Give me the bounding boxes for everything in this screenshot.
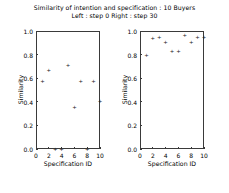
- x-axis-label: Specification ID: [36, 160, 100, 167]
- figure-title-block: Similarity of intention and specificatio…: [0, 4, 229, 20]
- y-tick-mark: [140, 54, 142, 55]
- data-point: [190, 40, 193, 43]
- x-tick-label: 10: [200, 152, 208, 159]
- x-tick-label: 0: [138, 152, 142, 159]
- x-tick-mark: [140, 147, 141, 149]
- data-point: [92, 79, 95, 82]
- data-point: [67, 64, 70, 67]
- figure-title: Similarity of intention and specificatio…: [0, 4, 229, 12]
- data-point: [54, 148, 57, 151]
- y-tick-mark: [140, 101, 142, 102]
- data-point: [196, 35, 199, 38]
- x-tick-mark: [165, 147, 166, 149]
- y-tick-label: 1.0: [16, 28, 33, 35]
- x-tick-mark: [74, 147, 75, 149]
- x-tick-label: 8: [189, 152, 193, 159]
- y-axis-label: Similarity: [17, 60, 24, 120]
- y-tick-mark: [140, 78, 142, 79]
- data-point: [86, 148, 89, 151]
- data-point: [41, 79, 44, 82]
- data-point: [183, 33, 186, 36]
- data-point: [145, 53, 148, 56]
- y-tick-label: 0.0: [16, 146, 33, 153]
- data-point: [79, 79, 82, 82]
- x-tick-label: 4: [164, 152, 168, 159]
- x-tick-mark: [152, 147, 153, 149]
- data-point: [73, 105, 76, 108]
- x-tick-label: 4: [60, 152, 64, 159]
- x-tick-mark: [191, 147, 192, 149]
- y-tick-label: 0.8: [120, 51, 137, 58]
- x-tick-mark: [178, 147, 179, 149]
- data-point: [171, 50, 174, 53]
- x-tick-mark: [48, 147, 49, 149]
- y-tick-mark: [36, 31, 38, 32]
- plot-frame-left: [36, 31, 100, 149]
- x-tick-label: 2: [151, 152, 155, 159]
- y-tick-label: 0.2: [16, 122, 33, 129]
- data-point: [47, 68, 50, 71]
- x-tick-mark: [100, 147, 101, 149]
- data-point: [203, 35, 206, 38]
- x-tick-label: 10: [96, 152, 104, 159]
- y-tick-label: 0.8: [16, 51, 33, 58]
- y-tick-mark: [36, 78, 38, 79]
- x-tick-mark: [36, 147, 37, 149]
- figure-canvas: Similarity of intention and specificatio…: [0, 0, 229, 193]
- scatter-plot-left: [36, 31, 100, 149]
- y-tick-mark: [140, 31, 142, 32]
- y-tick-label: 0.0: [120, 146, 137, 153]
- figure-subtitle: Left : step 0 Right : step 30: [0, 12, 229, 20]
- y-tick-mark: [36, 125, 38, 126]
- data-point: [177, 50, 180, 53]
- x-tick-label: 8: [85, 152, 89, 159]
- y-tick-mark: [36, 54, 38, 55]
- data-point: [164, 40, 167, 43]
- x-tick-label: 6: [176, 152, 180, 159]
- x-tick-label: 2: [47, 152, 51, 159]
- y-tick-label: 1.0: [120, 28, 137, 35]
- x-tick-label: 0: [34, 152, 38, 159]
- data-point: [99, 99, 102, 102]
- x-tick-label: 6: [72, 152, 76, 159]
- y-tick-mark: [36, 101, 38, 102]
- data-point: [60, 148, 63, 151]
- scatter-plot-right: [140, 31, 204, 149]
- y-axis-label: Similarity: [121, 60, 128, 120]
- y-tick-label: 0.2: [120, 122, 137, 129]
- data-point: [151, 37, 154, 40]
- y-tick-mark: [140, 125, 142, 126]
- data-point: [158, 35, 161, 38]
- x-tick-mark: [204, 147, 205, 149]
- x-axis-label: Specification ID: [140, 160, 204, 167]
